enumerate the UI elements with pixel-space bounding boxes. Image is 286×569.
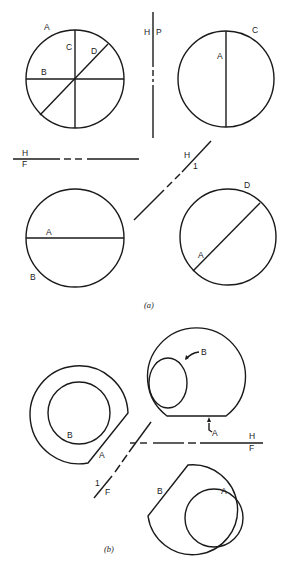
truncated-circle-outline [147, 328, 245, 416]
bottom-right-circle-view: D A [180, 180, 276, 285]
hole-ellipse [149, 358, 187, 408]
label-h: H [249, 431, 255, 441]
label-a: A [217, 51, 223, 61]
label-b: B [67, 430, 73, 440]
truncated-ring-outline [148, 465, 238, 555]
folding-line-hf-b: H F [130, 431, 263, 453]
inner-circle [48, 382, 110, 444]
label-b: B [157, 486, 163, 496]
label-a: A [44, 22, 50, 32]
arrowhead-a [207, 417, 211, 422]
label-d: D [244, 180, 250, 190]
top-right-circle-view: C A [178, 25, 274, 127]
label-b: B [30, 272, 36, 282]
top-view-shape: B A [147, 328, 245, 438]
label-1: 1 [95, 478, 100, 488]
edge-line-a [193, 203, 260, 271]
label-f: F [249, 443, 254, 453]
caption-b: (b) [104, 544, 114, 554]
caption-a: (a) [144, 300, 154, 310]
label-a: A [212, 428, 218, 438]
label-h: H [184, 150, 190, 160]
label-a: A [46, 227, 52, 237]
label-h: H [144, 27, 150, 37]
folding-line-hp: H P [144, 12, 162, 138]
label-a: A [221, 486, 227, 496]
top-left-circle-view: A C D B [26, 22, 124, 128]
label-a: A [198, 250, 204, 260]
panel-a: A C D B H P C A H F [13, 12, 276, 310]
inner-circle [185, 489, 243, 547]
circle-outline [180, 189, 276, 285]
auxiliary-view-shape: B A [148, 465, 243, 555]
label-h: H [22, 148, 28, 158]
label-d: D [91, 46, 97, 56]
label-p: P [156, 27, 162, 37]
folding-line-h1: H 1 [134, 141, 211, 220]
panel-b: B A H F 1 F B A [30, 328, 263, 555]
label-b: B [201, 347, 207, 357]
label-b: B [41, 67, 47, 77]
truncated-ring-outline [30, 366, 128, 464]
descriptive-geometry-figure: A C D B H P C A H F [0, 0, 286, 569]
label-1: 1 [193, 161, 198, 171]
left-view-shape: B A [30, 366, 128, 464]
folding-line-hf: H F [13, 148, 139, 169]
label-f: F [105, 487, 110, 497]
bottom-left-circle-view: A B [26, 189, 124, 287]
label-a: A [99, 450, 105, 460]
label-c: C [66, 42, 72, 52]
label-c: C [252, 25, 258, 35]
label-f: F [22, 159, 27, 169]
